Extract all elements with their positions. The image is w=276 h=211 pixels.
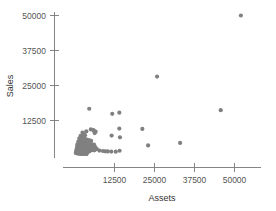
data-point [178, 141, 182, 145]
data-point [118, 135, 122, 139]
plot-canvas: 50000 37500 25000 12500 12500 25000 3750… [0, 0, 276, 211]
x-axis-title: Assets [148, 193, 176, 203]
y-tick-label-12500: 12500 [22, 116, 46, 126]
data-point [85, 152, 89, 156]
y-tick-label-25000: 25000 [22, 81, 46, 91]
data-point [239, 13, 243, 17]
y-axis-title: Sales [5, 74, 15, 97]
data-point [146, 143, 150, 147]
data-point [87, 107, 91, 111]
x-tick-label-25000: 25000 [143, 175, 167, 185]
data-point [110, 134, 114, 138]
data-point [117, 111, 121, 115]
data-point [92, 148, 96, 152]
data-point [219, 108, 223, 112]
data-point [93, 131, 97, 135]
data-point-layer [74, 13, 243, 156]
y-tick-label-37500: 37500 [22, 46, 46, 56]
scatter-plot-figure: 50000 37500 25000 12500 12500 25000 3750… [0, 0, 276, 211]
x-tick-label-50000: 50000 [223, 175, 247, 185]
data-point [114, 150, 118, 154]
data-point [109, 149, 113, 153]
x-tick-label-12500: 12500 [103, 175, 127, 185]
data-point [117, 127, 121, 131]
data-point [97, 149, 101, 153]
y-tick-label-50000: 50000 [22, 11, 46, 21]
data-point [110, 112, 114, 116]
data-point [118, 149, 122, 153]
x-tick-label-37500: 37500 [183, 175, 207, 185]
data-point [155, 74, 159, 78]
data-point [140, 127, 144, 131]
